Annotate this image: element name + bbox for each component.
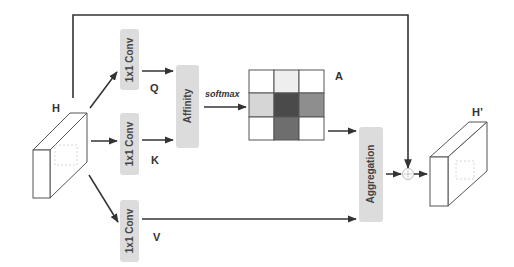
arrow-h-to-q bbox=[90, 72, 117, 108]
output-tensor bbox=[430, 122, 487, 206]
diagram-canvas: H 1x1 Conv 1x1 Conv 1x1 Conv Q K V Affin… bbox=[0, 0, 514, 267]
conv-k-box: 1x1 Conv bbox=[120, 113, 139, 175]
conv-v-box: 1x1 Conv bbox=[120, 200, 139, 262]
affinity-box: Affinity bbox=[176, 65, 199, 148]
input-tensor bbox=[33, 113, 87, 198]
input-label: H bbox=[52, 102, 60, 114]
arrow-h-to-v bbox=[89, 175, 118, 222]
conv-q-box: 1x1 Conv bbox=[120, 29, 139, 90]
output-label: H’ bbox=[472, 106, 483, 118]
sum-node bbox=[403, 169, 414, 180]
attention-map-grid bbox=[249, 70, 324, 140]
softmax-label: softmax bbox=[205, 89, 241, 99]
aggregation-box: Aggregation bbox=[359, 127, 383, 222]
conv-v-label: 1x1 Conv bbox=[124, 208, 135, 253]
affinity-label: Affinity bbox=[182, 88, 193, 123]
attention-map-label: A bbox=[335, 70, 343, 82]
v-label: V bbox=[153, 231, 161, 243]
conv-q-label: 1x1 Conv bbox=[124, 37, 135, 82]
k-label: K bbox=[151, 154, 159, 166]
q-label: Q bbox=[150, 82, 159, 94]
conv-k-label: 1x1 Conv bbox=[124, 121, 135, 166]
aggregation-label: Aggregation bbox=[365, 145, 376, 204]
